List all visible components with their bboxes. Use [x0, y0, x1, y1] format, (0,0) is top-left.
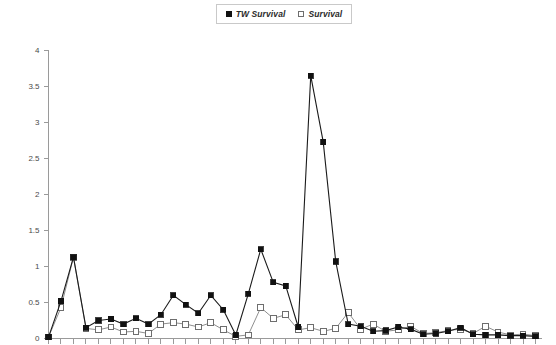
data-point-survival [320, 328, 326, 334]
data-point-survival [245, 332, 251, 338]
series-line-tw-survival [49, 76, 536, 337]
data-point-tw-survival [445, 329, 450, 334]
data-series-group [46, 73, 539, 340]
legend-entry-tw-survival: TW Survival [226, 9, 286, 19]
x-axis [49, 339, 542, 344]
data-point-tw-survival [133, 316, 138, 321]
data-point-survival [195, 324, 201, 330]
data-point-tw-survival [108, 316, 113, 321]
data-point-survival [133, 328, 139, 334]
data-point-survival [108, 324, 114, 330]
legend-entry-survival: Survival [298, 9, 342, 19]
data-point-survival [283, 312, 289, 318]
data-point-tw-survival [96, 318, 101, 323]
y-tick-label: 3.5 [28, 82, 40, 91]
data-point-tw-survival [508, 333, 513, 338]
filled-square-icon [226, 11, 232, 17]
data-point-tw-survival [433, 331, 438, 336]
data-point-tw-survival [333, 259, 338, 264]
y-tick-label: 2 [35, 190, 40, 199]
data-point-survival [308, 325, 314, 331]
data-point-tw-survival [208, 293, 213, 298]
data-point-tw-survival [233, 332, 238, 337]
chart-container: 00.511.522.533.54 TW Survival Survival [0, 0, 556, 345]
data-point-tw-survival [470, 332, 475, 337]
y-tick-label: 0.5 [28, 298, 40, 307]
data-point-tw-survival [283, 283, 288, 288]
data-point-survival [96, 327, 102, 333]
legend-label-tw-survival: TW Survival [236, 9, 286, 19]
data-point-survival [483, 323, 489, 329]
hollow-square-icon [298, 11, 304, 17]
data-point-tw-survival [71, 255, 76, 260]
data-point-tw-survival [183, 302, 188, 307]
data-point-tw-survival [358, 324, 363, 329]
data-point-tw-survival [258, 247, 263, 252]
data-point-survival [258, 305, 264, 311]
data-point-tw-survival [308, 73, 313, 78]
chart-legend: TW Survival Survival [216, 4, 352, 24]
y-tick-label: 4 [35, 46, 40, 55]
data-point-tw-survival [58, 298, 63, 303]
data-point-tw-survival [121, 322, 126, 327]
data-point-tw-survival [371, 329, 376, 334]
y-tick-label: 2.5 [28, 154, 40, 163]
data-point-tw-survival [321, 139, 326, 144]
data-point-tw-survival [495, 332, 500, 337]
data-point-tw-survival [171, 293, 176, 298]
y-tick-label: 1 [35, 262, 40, 271]
data-point-tw-survival [396, 324, 401, 329]
data-point-tw-survival [46, 334, 51, 339]
data-point-survival [183, 321, 189, 327]
data-point-survival [220, 327, 226, 333]
data-point-tw-survival [271, 280, 276, 285]
data-point-survival [208, 320, 214, 326]
data-point-tw-survival [520, 333, 525, 338]
y-tick-label: 3 [35, 118, 40, 127]
data-point-tw-survival [421, 332, 426, 337]
data-point-tw-survival [483, 332, 488, 337]
data-point-tw-survival [158, 312, 163, 317]
data-point-tw-survival [83, 325, 88, 330]
y-tick-label: 0 [35, 334, 40, 343]
data-point-tw-survival [346, 322, 351, 327]
data-point-survival [370, 321, 376, 327]
data-point-tw-survival [533, 334, 538, 339]
data-point-survival [146, 331, 152, 337]
data-point-tw-survival [458, 325, 463, 330]
data-point-tw-survival [146, 322, 151, 327]
data-point-tw-survival [221, 307, 226, 312]
y-tick-label: 1.5 [28, 226, 40, 235]
data-point-survival [158, 321, 164, 327]
data-point-survival [170, 320, 176, 326]
data-point-tw-survival [246, 291, 251, 296]
data-point-tw-survival [383, 328, 388, 333]
data-point-tw-survival [296, 324, 301, 329]
data-point-tw-survival [196, 311, 201, 316]
legend-label-survival: Survival [308, 9, 342, 19]
data-point-survival [333, 326, 339, 332]
data-point-tw-survival [408, 327, 413, 332]
line-chart-plot: 00.511.522.533.54 [0, 0, 556, 345]
data-point-survival [270, 315, 276, 321]
data-point-survival [121, 329, 127, 335]
y-axis: 00.511.522.533.54 [28, 46, 48, 343]
